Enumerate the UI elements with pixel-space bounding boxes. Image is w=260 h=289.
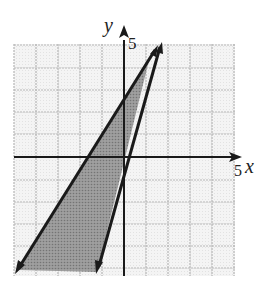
x-tick-label: 5 <box>234 162 242 180</box>
x-axis-label: x <box>245 155 254 178</box>
y-tick-label: 5 <box>128 34 137 54</box>
y-axis-label: y <box>104 14 113 37</box>
